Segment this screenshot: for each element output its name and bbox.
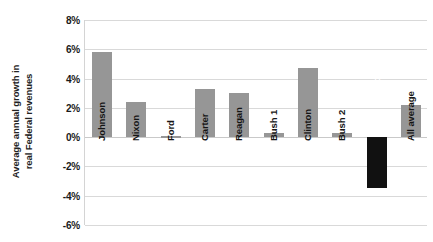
y-axis-title: Average annual growth in real Federal re… <box>0 0 46 242</box>
x-axis-category-label: Bush 1 <box>268 110 279 141</box>
bar[interactable] <box>367 137 387 188</box>
y-axis-tick-label: 0% <box>66 132 80 143</box>
plot-area: JohnsonNixonFordCarterReaganBush 1Clinto… <box>84 20 427 225</box>
x-axis-category-label: Johnson <box>96 102 107 141</box>
bar-group: Johnson <box>85 20 119 225</box>
x-axis-category-label: Clinton <box>302 109 313 141</box>
x-axis-category-label: Bush 2 <box>336 110 347 141</box>
bar-group: Obama <box>359 20 393 225</box>
bar-group: All average <box>394 20 428 225</box>
bar-group: Bush 1 <box>257 20 291 225</box>
x-axis-category-label: All average <box>405 92 416 142</box>
y-axis-tick-label: -2% <box>63 161 80 172</box>
bar-group: Reagan <box>222 20 256 225</box>
x-axis-category-label: Reagan <box>233 107 244 141</box>
x-axis-category-label: Ford <box>165 120 176 141</box>
y-axis-tick-label: 6% <box>66 44 80 55</box>
bar-group: Ford <box>154 20 188 225</box>
bar-chart: Average annual growth in real Federal re… <box>0 0 433 242</box>
x-axis-category-label: Obama <box>371 58 382 90</box>
y-axis-tick-label: 2% <box>66 102 80 113</box>
y-axis-tick-label: -6% <box>63 220 80 231</box>
y-axis-title-line-2: real Federal revenues <box>23 64 36 177</box>
bar-group: Nixon <box>119 20 153 225</box>
y-axis-tick-labels: 8%6%4%2%0%-2%-4%-6% <box>46 0 84 242</box>
y-axis-tick-label: -4% <box>63 190 80 201</box>
x-axis-category-label: Nixon <box>130 115 141 141</box>
bar-group: Clinton <box>291 20 325 225</box>
x-axis-category-label: Carter <box>199 114 210 141</box>
y-axis-tick-label: 4% <box>66 73 80 84</box>
gridline <box>85 225 427 226</box>
bar-group: Carter <box>188 20 222 225</box>
bars-layer: JohnsonNixonFordCarterReaganBush 1Clinto… <box>85 20 427 225</box>
y-axis-tick-label: 8% <box>66 15 80 26</box>
bar-group: Bush 2 <box>325 20 359 225</box>
y-axis-title-line-1: Average annual growth in <box>11 64 24 177</box>
